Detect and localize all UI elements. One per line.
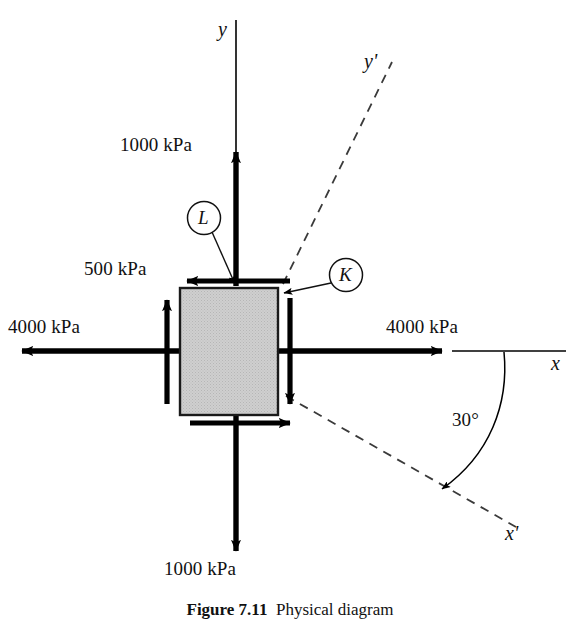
figure-caption-spacer [267,600,276,619]
figure-caption-text: Physical diagram [276,600,394,619]
shear-stress-label: 500 kPa [84,258,146,280]
callout-leader-L [212,232,235,284]
y-axis-label: y [218,18,227,41]
angle-label-30deg: 30° [452,409,479,431]
normal-stress-label-left: 4000 kPa [8,316,80,338]
y-prime-axis-dashed-line [283,62,392,284]
x-axis-label: x [551,352,560,375]
y-prime-axis-label: y' [364,50,377,73]
stress-element-figure [0,0,580,619]
figure-caption-number: Figure 7.11 [187,600,268,619]
normal-stress-label-top: 1000 kPa [120,134,192,156]
callout-label-L: L [198,207,209,229]
stress-element-square [180,288,278,415]
callout-leader-K [284,283,331,293]
normal-stress-label-right: 4000 kPa [386,316,458,338]
normal-stress-label-bottom: 1000 kPa [164,558,236,580]
x-prime-axis-label: x' [505,522,518,545]
figure-caption: Figure 7.11 Physical diagram [0,600,580,619]
callout-label-K: K [339,264,352,286]
x-prime-axis-dashed-line [286,396,516,527]
